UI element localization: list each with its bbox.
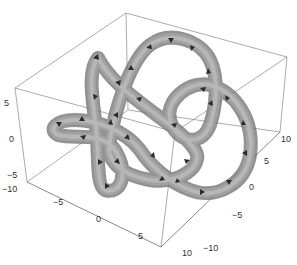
x-tick-label: 0 xyxy=(96,214,101,224)
y-tick-label: 0 xyxy=(249,182,254,192)
z-tick-label: 5 xyxy=(4,98,9,108)
x-tick-label: 10 xyxy=(182,248,192,258)
x-axis: −5 0 5 10 xyxy=(53,197,192,258)
y-tick-label: −10 xyxy=(203,243,218,253)
x-tick-label: 5 xyxy=(138,231,143,241)
z-tick-label: −5 xyxy=(7,170,17,180)
3d-plot[interactable]: 5 0 −5 −10 −5 0 5 10 −10 −5 0 5 10 xyxy=(0,0,297,265)
z-tick-label: 0 xyxy=(9,134,14,144)
y-tick-label: −5 xyxy=(232,210,242,220)
z-tick-label: −10 xyxy=(2,184,17,194)
x-tick-label: −5 xyxy=(53,197,63,207)
y-tick-label: 10 xyxy=(281,134,291,144)
tube-knot xyxy=(53,38,250,193)
z-axis: 5 0 −5 −10 xyxy=(2,98,17,194)
y-tick-label: 5 xyxy=(264,156,269,166)
